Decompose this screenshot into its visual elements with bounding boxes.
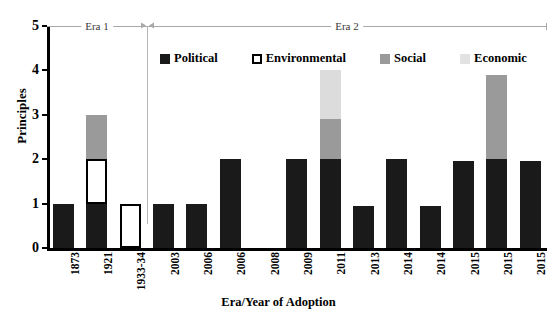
y-tick-label: 5 [32,18,39,34]
y-tick-label: 4 [32,62,39,78]
x-axis-title: Era/Year of Adoption [0,295,557,310]
x-tick-label: 2013 [369,252,381,275]
era-1-label: Era 1 [81,20,113,32]
era-band-line [47,26,547,27]
legend-swatch-social-icon [380,54,390,64]
x-tick-label: 2014 [402,252,414,275]
x-tick-label: 1873 [69,252,81,275]
x-tick-label: 2015 [469,252,481,275]
bar-segment-political [53,204,74,248]
bar-segment-political [86,204,107,248]
bar-segment-political [353,206,374,248]
x-tick-label: 2015 [502,252,514,275]
bar-segment-political [186,204,207,248]
bar-slot [80,26,113,248]
chart-figure: Principles 012345 Era 1 Era 2 PoliticalE… [0,0,557,318]
chart-legend: PoliticalEnvironmentalSocialEconomic [160,51,527,66]
bar-segment-political [520,161,541,248]
bar-slot [114,26,147,248]
bar-segment-political [486,159,507,248]
x-tick-label: 2006 [235,252,247,275]
bar-segment-economic [320,70,341,119]
legend-swatch-economic-icon [460,54,470,64]
legend-item-environmental[interactable]: Environmental [252,51,346,66]
bar-segment-environmental [86,159,107,203]
x-tick-label: 2008 [269,252,281,275]
bar-segment-social [486,75,507,159]
bar-segment-social [86,115,107,159]
x-tick-label: 2003 [169,252,181,275]
bar-segment-political [320,159,341,248]
x-axis-line [47,248,547,251]
bar-segment-political [386,159,407,248]
legend-item-economic[interactable]: Economic [460,51,527,66]
bar-segment-political [420,206,441,248]
y-tick-label: 0 [32,240,39,256]
bar-segment-political [220,159,241,248]
legend-label: Economic [474,51,527,66]
x-tick-label: 1921 [102,252,114,275]
era-2-label: Era 2 [331,20,363,32]
bar-slot [47,26,80,248]
bar-segment-environmental [120,204,141,248]
x-tick-label: 2014 [435,252,447,275]
legend-label: Social [394,51,426,66]
x-axis-tick-labels: 187319211933-342003200620062008200920112… [47,252,547,290]
era-arrow-icon [149,23,154,29]
legend-item-political[interactable]: Political [160,51,218,66]
bar-segment-social [320,119,341,159]
x-tick-label: 1933-34 [135,252,147,290]
bar-segment-political [153,204,174,248]
y-tick-label: 3 [32,107,39,123]
y-tick-label: 2 [32,151,39,167]
legend-item-social[interactable]: Social [380,51,426,66]
legend-label: Political [174,51,218,66]
bar-segment-political [453,161,474,248]
legend-swatch-environmental-icon [252,54,262,64]
era-divider-line [147,26,148,224]
bar-segment-political [286,159,307,248]
x-tick-label: 2011 [335,252,347,274]
legend-swatch-political-icon [160,54,170,64]
y-tick-label: 1 [32,196,39,212]
x-tick-label: 2006 [202,252,214,275]
era-arrow-icon [141,23,146,29]
legend-label: Environmental [266,51,346,66]
x-tick-label: 2009 [302,252,314,275]
x-tick-label: 2015 [535,252,547,275]
era-end-cap [546,23,547,30]
y-axis-title: Principles [14,68,30,164]
